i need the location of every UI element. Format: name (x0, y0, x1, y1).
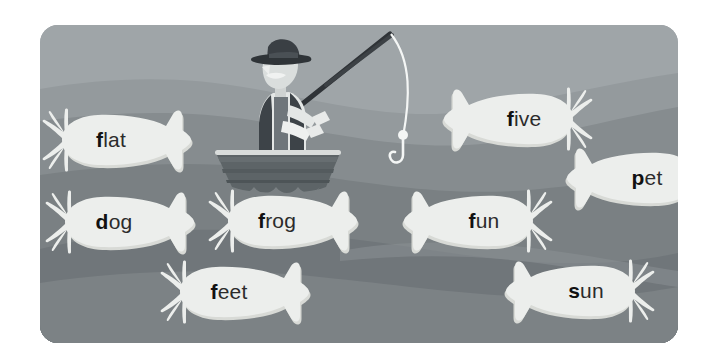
fish-pet[interactable]: pet (566, 142, 678, 214)
boat-rim (215, 150, 341, 155)
fish-shape (403, 185, 553, 257)
fish-shape (42, 104, 192, 176)
fish-feet[interactable]: feet (160, 256, 310, 328)
bobber (398, 130, 408, 140)
fish-body (404, 191, 533, 250)
fishing-line (391, 34, 408, 137)
fish-shape (566, 142, 678, 214)
fish-body (65, 192, 194, 251)
fish-body (506, 261, 635, 320)
hat (251, 39, 311, 65)
fish-body (228, 191, 357, 250)
screenshot-root: flatfivepetdogfrogfunfeetsun (0, 0, 716, 364)
fish-dog[interactable]: dog (45, 186, 195, 258)
fish-body (180, 262, 309, 321)
fish-body (444, 89, 573, 148)
fish-flat[interactable]: flat (42, 104, 192, 176)
fish-shape (45, 186, 195, 258)
hand-upper (312, 111, 330, 126)
fish-fun[interactable]: fun (403, 185, 553, 257)
fish-body (567, 148, 678, 207)
fish-shape (208, 185, 358, 257)
fish-shape (160, 256, 310, 328)
fish-body (62, 110, 191, 169)
fish-sun[interactable]: sun (505, 255, 655, 327)
fish-shape (505, 255, 655, 327)
fish-frog[interactable]: frog (208, 185, 358, 257)
illustration-card: flatfivepetdogfrogfunfeetsun (40, 25, 678, 343)
fishing-hook (390, 140, 403, 162)
